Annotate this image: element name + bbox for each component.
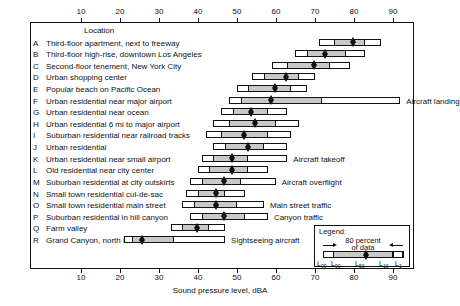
median-diamond-bottom (245, 147, 251, 152)
top-tick-80 (354, 18, 355, 22)
median-diamond-bottom (241, 135, 247, 140)
bar-inner-D (264, 74, 299, 79)
row-label-B: Third-floor high-rise, downtown Los Ange… (46, 50, 202, 59)
row-letter-Q: Q (33, 224, 43, 233)
bottom-tick-label-40: 40 (186, 274, 210, 282)
median-diamond-bottom (322, 54, 328, 59)
bottom-tick-label-50: 50 (225, 274, 249, 282)
top-tick-20 (120, 18, 121, 22)
row-label-M: Suburban residential at city outskirts (46, 178, 175, 187)
bottom-tick-label-60: 60 (264, 274, 288, 282)
row-label-A: Third-floor apartment, next to freeway (46, 39, 179, 48)
row-letter-P: P (33, 213, 43, 222)
bottom-tick-label-20: 20 (108, 274, 132, 282)
top-tick-label-60: 60 (264, 8, 288, 16)
top-tick-label-90: 90 (381, 8, 405, 16)
median-diamond-bottom (248, 112, 254, 117)
row-note-K: Aircraft takeoff (293, 155, 344, 164)
bottom-tick-label-10: 10 (69, 274, 93, 282)
row-note-R: Sightseeing aircraft (231, 236, 299, 245)
median-diamond-bottom (194, 228, 200, 233)
bottom-tick-label-90: 90 (381, 274, 405, 282)
top-tick-label-30: 30 (147, 8, 171, 16)
row-letter-I: I (33, 131, 43, 140)
legend-tick-0 (323, 251, 324, 258)
row-label-O: Small town residential main street (46, 201, 166, 210)
top-tick-label-10: 10 (69, 8, 93, 16)
row-label-N: Small town residential cul-de-sac (46, 190, 163, 199)
median-diamond-bottom (272, 88, 278, 93)
row-label-C: Second-floor tenement, New York City (46, 62, 181, 71)
row-letter-M: M (33, 178, 43, 187)
row-label-P: Suburban residential in hill canyon (46, 213, 168, 222)
median-diamond-bottom (139, 240, 145, 245)
bottom-tick-label-80: 80 (342, 274, 366, 282)
median-diamond-bottom (229, 158, 235, 163)
median-diamond-bottom (350, 42, 356, 47)
top-tick-label-40: 40 (186, 8, 210, 16)
row-label-J: Urban residential (46, 143, 106, 152)
row-letter-N: N (33, 190, 43, 199)
legend-tick-1 (333, 251, 334, 258)
median-diamond-bottom (252, 123, 258, 128)
legend: Legend:80 percentof dataL99L90L50L10L1 (314, 225, 410, 267)
x-axis-title: Sound pressure level, dBA (140, 286, 300, 295)
row-label-D: Urban shopping center (46, 73, 127, 82)
median-diamond-bottom (213, 205, 219, 210)
legend-label-L90: L90 (331, 260, 340, 270)
legend-title: Legend: (319, 228, 346, 236)
bar-inner-E (248, 86, 291, 91)
top-tick-40 (198, 18, 199, 22)
row-letter-A: A (33, 39, 43, 48)
top-tick-label-80: 80 (342, 8, 366, 16)
chart-frame-left (30, 22, 31, 268)
row-letter-O: O (33, 201, 43, 210)
top-tick-60 (276, 18, 277, 22)
legend-label-L50: L50 (355, 260, 364, 270)
legend-label-L10: L10 (379, 260, 388, 270)
top-tick-90 (393, 18, 394, 22)
legend-tick-2 (393, 251, 394, 258)
row-label-L: Old residential near city center (46, 166, 154, 175)
legend-label-L1: L1 (395, 260, 402, 270)
row-letter-F: F (33, 97, 43, 106)
row-note-P: Canyon traffic (274, 213, 323, 222)
row-letter-H: H (33, 120, 43, 129)
column-header-location: Location (84, 26, 114, 35)
median-diamond-bottom (229, 170, 235, 175)
row-label-Q: Farm valley (46, 224, 87, 233)
row-letter-G: G (33, 108, 43, 117)
top-tick-10 (81, 18, 82, 22)
median-diamond-bottom (221, 181, 227, 186)
median-diamond-bottom (283, 77, 289, 82)
median-diamond-bottom (311, 65, 317, 70)
legend-diamond-bottom (363, 255, 369, 260)
median-diamond-bottom (213, 193, 219, 198)
legend-label-L99: L99 (317, 260, 326, 270)
row-note-F: Aircraft landing (406, 97, 459, 106)
row-note-O: Main street traffic (270, 201, 331, 210)
median-diamond-bottom (221, 216, 227, 221)
top-tick-70 (315, 18, 316, 22)
legend-arrow-right-head (389, 243, 393, 247)
row-letter-C: C (33, 62, 43, 71)
median-diamond-bottom (268, 100, 274, 105)
row-label-H: Urban residential 6 mi to major airport (46, 120, 180, 129)
top-tick-50 (237, 18, 238, 22)
top-tick-label-20: 20 (108, 8, 132, 16)
bottom-tick-label-70: 70 (303, 274, 327, 282)
bar-inner-C (287, 63, 330, 68)
row-label-I: Suburban residential near railroad track… (46, 131, 190, 140)
row-letter-K: K (33, 155, 43, 164)
chart-frame-right (413, 22, 414, 268)
top-tick-label-70: 70 (303, 8, 327, 16)
row-label-K: Urban residential near small airport (46, 155, 171, 164)
row-letter-J: J (33, 143, 43, 152)
row-label-E: Popular beach on Pacific Ocean (46, 85, 160, 94)
bar-inner-N (198, 191, 225, 196)
row-label-G: Urban residential near ocean (46, 108, 149, 117)
bottom-tick-label-30: 30 (147, 274, 171, 282)
row-letter-R: R (33, 236, 43, 245)
bar-inner-F (241, 98, 323, 103)
